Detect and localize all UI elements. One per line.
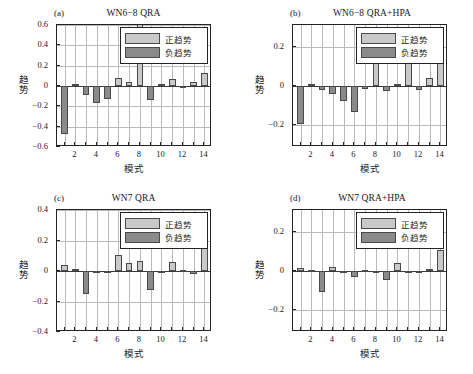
panel-d-legend: 正趋势 负趋势 — [356, 212, 444, 249]
x-axis-tick-mark — [128, 142, 129, 146]
y-axis-tick-label: −0.2 — [236, 119, 290, 129]
y-axis-tick-mark — [56, 240, 60, 241]
bar-mode-11 — [405, 271, 412, 273]
x-axis-tick-mark — [386, 142, 387, 146]
x-axis-tick-label: 10 — [156, 149, 165, 159]
bar-mode-13 — [426, 78, 433, 86]
gridline-vertical — [322, 25, 323, 145]
x-axis-tick-label: 10 — [156, 334, 165, 344]
y-axis-tick-label: −0.6 — [0, 141, 54, 151]
legend-row-negative: 负趋势 — [125, 231, 203, 243]
x-axis-tick-mark — [139, 327, 140, 331]
bar-mode-14 — [201, 73, 208, 86]
y-axis-tick-label: −0.2 — [0, 296, 54, 306]
bar-mode-5 — [340, 86, 347, 101]
bar-mode-9 — [147, 86, 154, 100]
x-axis-tick-label: 4 — [94, 334, 98, 344]
x-axis-tick-label: 2 — [308, 149, 312, 159]
gridline-vertical — [322, 210, 323, 330]
x-axis-tick-mark — [407, 327, 408, 331]
x-axis-tick-mark — [160, 327, 161, 331]
bar-mode-9 — [383, 86, 390, 91]
y-axis-tick-mark — [292, 270, 296, 271]
x-axis-tick-label: 14 — [435, 149, 444, 159]
y-axis-tick-label: 0 — [0, 265, 54, 275]
x-axis-tick-mark — [182, 142, 183, 146]
x-axis-tick-mark — [396, 142, 397, 146]
x-axis-tick-mark — [429, 142, 430, 146]
gridline-horizontal — [57, 127, 210, 128]
x-axis-tick-mark — [343, 142, 344, 146]
y-axis-tick-label: 0 — [236, 265, 290, 275]
x-axis-tick-label: 2 — [72, 334, 76, 344]
bar-mode-10 — [158, 271, 165, 273]
y-axis-tick-label: 0.2 — [236, 226, 290, 236]
y-axis-tick-mark — [56, 85, 60, 86]
x-axis-tick-mark — [300, 327, 301, 331]
bar-mode-5 — [340, 271, 347, 273]
legend-row-positive: 正趋势 — [125, 218, 203, 230]
x-axis-tick-mark — [321, 142, 322, 146]
bar-mode-6 — [351, 86, 358, 112]
x-axis-tick-mark — [193, 142, 194, 146]
bar-mode-12 — [416, 271, 423, 273]
x-axis-tick-mark — [182, 327, 183, 331]
x-axis-tick-mark — [74, 327, 75, 331]
legend-row-positive: 正趋势 — [361, 218, 439, 230]
bar-mode-13 — [190, 82, 197, 86]
x-axis-tick-mark — [171, 142, 172, 146]
bar-mode-4 — [93, 86, 100, 103]
bar-mode-3 — [83, 86, 90, 95]
legend-label-negative: 负趋势 — [401, 231, 428, 243]
gridline-vertical — [344, 210, 345, 330]
x-axis-tick-mark — [321, 327, 322, 331]
x-axis-tick-mark — [128, 327, 129, 331]
gridline-horizontal — [293, 310, 446, 311]
x-axis-tick-mark — [439, 142, 440, 146]
y-axis-tick-mark — [56, 331, 60, 332]
y-axis-tick-mark — [56, 44, 60, 45]
y-axis-tick-label: −0.4 — [0, 121, 54, 131]
x-axis-tick-label: 12 — [178, 334, 187, 344]
y-axis-tick-mark — [56, 24, 60, 25]
x-axis-tick-mark — [310, 142, 311, 146]
y-axis-tick-mark — [292, 85, 296, 86]
bar-mode-4 — [93, 271, 100, 273]
bar-mode-2 — [308, 270, 315, 272]
bar-mode-2 — [72, 84, 79, 86]
x-axis-tick-mark — [332, 327, 333, 331]
bar-mode-7 — [362, 270, 369, 272]
bar-mode-10 — [158, 84, 165, 86]
x-axis-tick-mark — [85, 327, 86, 331]
y-axis-tick-label: 0.2 — [236, 41, 290, 51]
y-axis-tick-mark — [56, 301, 60, 302]
trend-bar-chart-figure: (a) WN6−8 QRA 趋势 模式 正趋势 负趋势 −0.6−0.4−0.2… — [0, 0, 473, 374]
y-axis-tick-mark — [56, 65, 60, 66]
bar-mode-4 — [329, 86, 336, 94]
x-axis-tick-label: 2 — [72, 149, 76, 159]
y-axis-tick-label: −0.4 — [0, 326, 54, 336]
x-axis-tick-label: 8 — [137, 334, 141, 344]
x-axis-tick-mark — [64, 327, 65, 331]
y-axis-tick-mark — [292, 124, 296, 125]
panel-d-title: WN7 QRA+HPA — [292, 193, 452, 203]
legend-label-negative: 负趋势 — [165, 231, 192, 243]
bar-mode-8 — [373, 271, 380, 273]
bar-mode-10 — [394, 84, 401, 86]
x-axis-tick-label: 4 — [330, 149, 334, 159]
x-axis-tick-label: 2 — [308, 334, 312, 344]
legend-row-negative: 负趋势 — [361, 231, 439, 243]
bar-mode-10 — [394, 263, 401, 271]
zero-line — [57, 271, 210, 272]
legend-row-positive: 正趋势 — [361, 33, 439, 45]
x-axis-tick-mark — [203, 142, 204, 146]
x-axis-tick-mark — [117, 327, 118, 331]
bar-mode-9 — [147, 271, 154, 290]
legend-swatch-positive — [125, 33, 160, 44]
x-axis-tick-mark — [107, 327, 108, 331]
bar-mode-11 — [169, 262, 176, 271]
gridline-vertical — [97, 210, 98, 330]
legend-label-positive: 正趋势 — [165, 218, 192, 230]
bar-mode-13 — [426, 269, 433, 271]
bar-mode-12 — [180, 270, 187, 272]
